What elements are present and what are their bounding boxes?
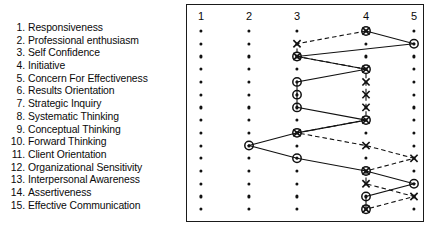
competency-label-number: 7.	[8, 98, 25, 111]
competency-label-number: 10.	[8, 136, 25, 149]
x-axis-tick-label: 3	[294, 10, 300, 22]
competency-label-text: Responsiveness	[28, 22, 103, 35]
competency-label-row: 13.Interpersonal Awareness	[8, 174, 184, 187]
competency-label-row: 2.Professional enthusiasm	[8, 35, 184, 48]
competency-label-text: Assertiveness	[28, 187, 91, 200]
competency-label-number: 14.	[8, 187, 25, 200]
x-axis-tick-label: 4	[363, 10, 369, 22]
competency-label-row: 12.Organizational Sensitivity	[8, 162, 184, 175]
competency-label-row: 15.Effective Communication	[8, 200, 184, 213]
chart-series-svg	[187, 5, 425, 223]
competency-label-number: 2.	[8, 35, 25, 48]
x-axis-tick-label: 2	[246, 10, 252, 22]
competency-label-row: 1.Responsiveness	[8, 22, 184, 35]
competency-label-text: Strategic Inquiry	[28, 98, 101, 111]
competency-label-row: 3.Self Confidence	[8, 47, 184, 60]
competency-label-row: 11.Client Orientation	[8, 149, 184, 162]
competency-label-row: 4.Initiative	[8, 60, 184, 73]
competency-label-number: 1.	[8, 22, 25, 35]
competency-label-text: Initiative	[28, 60, 65, 73]
competency-label-number: 15.	[8, 200, 25, 213]
competency-label-text: Self Confidence	[28, 47, 100, 60]
competency-label-row: 5.Concern For Effectiveness	[8, 73, 184, 86]
competency-label-text: Conceptual Thinking	[28, 124, 121, 137]
competency-label-text: Interpersonal Awareness	[28, 174, 140, 187]
competency-label-text: Professional enthusiasm	[28, 35, 139, 48]
competency-label-number: 6.	[8, 85, 25, 98]
competency-label-text: Systematic Thinking	[28, 111, 119, 124]
chart-frame: 12345	[186, 4, 424, 222]
competency-label-text: Effective Communication	[28, 200, 140, 213]
competency-label-row: 10.Forward Thinking	[8, 136, 184, 149]
competency-label-number: 13.	[8, 174, 25, 187]
competency-label-row: 8.Systematic Thinking	[8, 111, 184, 124]
competency-label-text: Forward Thinking	[28, 136, 106, 149]
series-line-circle-series	[249, 31, 414, 209]
competency-label-row: 6.Results Orientation	[8, 85, 184, 98]
competency-label-number: 12.	[8, 162, 25, 175]
chart-plot-area: 12345	[187, 5, 423, 221]
competency-label-row: 7.Strategic Inquiry	[8, 98, 184, 111]
competency-label-number: 11.	[8, 149, 25, 162]
competency-label-list: 1.Responsiveness2.Professional enthusias…	[8, 22, 184, 212]
scale-profile-figure: 1.Responsiveness2.Professional enthusias…	[0, 0, 428, 232]
competency-label-number: 9.	[8, 124, 25, 137]
x-axis-tick-label: 1	[198, 10, 204, 22]
competency-label-text: Results Orientation	[28, 85, 114, 98]
competency-label-text: Organizational Sensitivity	[28, 162, 142, 175]
series-line-x-series	[297, 31, 414, 209]
competency-label-number: 4.	[8, 60, 25, 73]
competency-label-text: Concern For Effectiveness	[28, 73, 148, 86]
competency-label-number: 5.	[8, 73, 25, 86]
competency-label-row: 14.Assertiveness	[8, 187, 184, 200]
competency-label-number: 8.	[8, 111, 25, 124]
competency-label-row: 9.Conceptual Thinking	[8, 124, 184, 137]
competency-label-number: 3.	[8, 47, 25, 60]
x-axis-tick-label: 5	[411, 10, 417, 22]
competency-label-text: Client Orientation	[28, 149, 106, 162]
